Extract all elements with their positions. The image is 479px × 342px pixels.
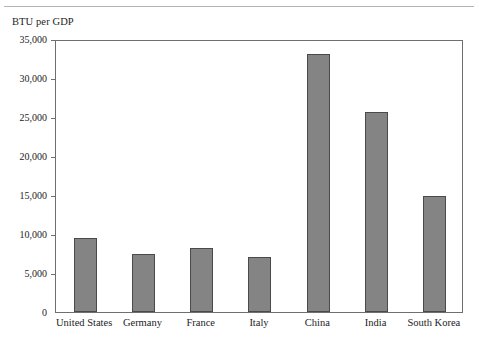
plot-area (55, 40, 463, 313)
x-axis-tick-label: China (305, 316, 330, 330)
x-axis-tick-label: Italy (249, 316, 268, 330)
bars-layer (56, 41, 462, 312)
bar-slot (406, 41, 464, 312)
y-axis-tick-label: 10,000 (20, 228, 48, 241)
x-axis-tick-label: France (186, 316, 215, 330)
x-axis-tick-label: United States (56, 316, 112, 330)
chart-axis-title: BTU per GDP (12, 15, 74, 28)
bar-france (190, 248, 213, 312)
x-axis-tick-label: Germany (123, 316, 162, 330)
y-axis-tick-label: 25,000 (20, 111, 48, 124)
top-divider-rule (4, 6, 474, 7)
bar-china (307, 54, 330, 312)
y-axis-tick-label: 20,000 (20, 150, 48, 163)
bar-slot (56, 41, 114, 312)
bar-south-korea (423, 196, 446, 312)
bar-slot (347, 41, 405, 312)
chart-figure: BTU per GDP 05,00010,00015,00020,00025,0… (0, 0, 479, 342)
x-axis-tick-label: India (365, 316, 387, 330)
bar-slot (231, 41, 289, 312)
bar-germany (132, 254, 155, 312)
y-axis-tick-label: 35,000 (20, 33, 48, 46)
bar-india (365, 112, 388, 312)
y-axis-tick-label: 30,000 (20, 72, 48, 85)
y-axis-tick-label: 15,000 (20, 189, 48, 202)
bar-united-states (74, 238, 97, 312)
x-axis: United StatesGermanyFranceItalyChinaIndi… (55, 316, 463, 336)
y-axis: 05,00010,00015,00020,00025,00030,00035,0… (0, 40, 55, 313)
y-axis-tick-label: 5,000 (25, 267, 48, 280)
bar-slot (114, 41, 172, 312)
x-axis-tick-label: South Korea (407, 316, 460, 330)
bar-slot (173, 41, 231, 312)
bar-italy (248, 257, 271, 312)
bar-slot (289, 41, 347, 312)
y-axis-tick-label: 0 (42, 306, 47, 319)
